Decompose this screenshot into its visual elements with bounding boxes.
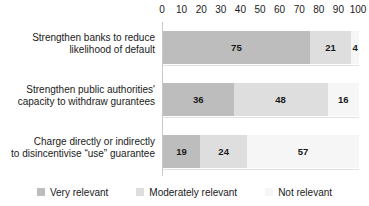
category-label-line: likelihood of default — [3, 44, 155, 56]
bar-segment-value-label: 21 — [325, 43, 336, 53]
bar-group: 192457 — [163, 135, 359, 168]
bar-segment-value-label: 57 — [298, 147, 309, 157]
bar-baseline — [163, 65, 359, 66]
category-label-line: capacity to withdraw gurantees — [3, 96, 155, 108]
bar-segment-value-label: 36 — [193, 95, 204, 105]
x-axis-tick-label: 20 — [196, 4, 207, 15]
chart-legend: Very relevantModerately relevantNot rele… — [0, 184, 369, 200]
x-axis-tick-label: 10 — [176, 4, 187, 15]
bar-baseline — [163, 117, 359, 118]
legend-item[interactable]: Not relevant — [265, 187, 332, 198]
bar-segment: 4 — [351, 31, 359, 64]
x-axis-tick-label: 30 — [215, 4, 226, 15]
legend-swatch-icon — [136, 188, 144, 196]
bar-segment-value-label: 16 — [338, 95, 349, 105]
bar-segment: 24 — [200, 135, 247, 168]
category-label-line: Strengthen banks to reduce — [3, 32, 155, 44]
legend-swatch-icon — [37, 188, 45, 196]
bar-segment: 19 — [163, 135, 200, 168]
x-axis-tick-label: 50 — [254, 4, 265, 15]
bar-segment: 75 — [163, 31, 310, 64]
category-label: Strengthen banks to reducelikelihood of … — [3, 32, 155, 56]
legend-item[interactable]: Very relevant — [37, 187, 108, 198]
legend-item[interactable]: Moderately relevant — [136, 187, 237, 198]
bar-segment-value-label: 48 — [275, 95, 286, 105]
x-axis-tick-label: 100 — [350, 4, 367, 15]
bar-group: 364816 — [163, 83, 359, 116]
category-label: Charge directly or indirectlyto disincen… — [3, 136, 155, 160]
legend-swatch-icon — [265, 188, 273, 196]
bar-segment: 57 — [247, 135, 359, 168]
plot-area: 75214364816192457 — [162, 22, 358, 176]
bar-segment-value-label: 19 — [176, 147, 187, 157]
legend-label: Very relevant — [50, 187, 108, 198]
stacked-bar-chart: 0102030405060708090100 75214364816192457… — [0, 0, 369, 206]
legend-label: Not relevant — [278, 187, 332, 198]
x-axis-tick-label: 60 — [274, 4, 285, 15]
bar-segment-value-label: 24 — [218, 147, 229, 157]
x-axis-tick-label: 80 — [313, 4, 324, 15]
bar-segment: 16 — [328, 83, 359, 116]
category-label-line: Charge directly or indirectly — [3, 136, 155, 148]
legend-label: Moderately relevant — [149, 187, 237, 198]
bar-segment-value-label: 4 — [352, 43, 357, 53]
x-axis-tick-label: 40 — [235, 4, 246, 15]
x-axis-tick-label: 90 — [333, 4, 344, 15]
bar-segment: 21 — [310, 31, 351, 64]
bar-segment: 48 — [234, 83, 328, 116]
x-axis-tick-label: 70 — [294, 4, 305, 15]
x-axis-tick-label: 0 — [159, 4, 165, 15]
x-axis: 0102030405060708090100 — [162, 0, 358, 22]
category-label-line: Strengthen public authorities' — [3, 84, 155, 96]
category-label-line: to disincentivise “use” guarantee — [3, 148, 155, 160]
bar-baseline — [163, 169, 359, 170]
category-label: Strengthen public authorities'capacity t… — [3, 84, 155, 108]
bar-segment-value-label: 75 — [231, 43, 242, 53]
bar-segment: 36 — [163, 83, 234, 116]
bar-group: 75214 — [163, 31, 359, 64]
